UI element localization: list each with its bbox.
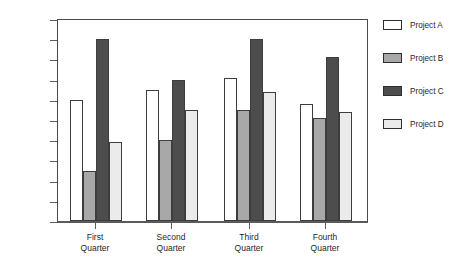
bar <box>300 104 313 221</box>
y-axis-tick-mark <box>50 60 57 61</box>
y-axis-tick-mark <box>50 202 57 203</box>
x-axis-tick-mark <box>325 223 326 229</box>
plot-area <box>57 19 368 223</box>
y-axis-tick-mark <box>50 141 57 142</box>
bar <box>263 92 276 221</box>
y-axis-tick-mark <box>50 182 57 183</box>
x-axis-tick-label: FourthQuarter <box>280 232 370 254</box>
legend-label: Project C <box>410 87 444 96</box>
y-axis-tick-mark <box>50 81 57 82</box>
bar <box>146 90 159 221</box>
bar-group <box>300 20 352 221</box>
x-axis-tick-label-line: Fourth <box>280 232 370 243</box>
legend-swatch <box>383 20 402 30</box>
bar <box>313 118 326 221</box>
legend-swatch <box>383 86 402 96</box>
bar-group <box>70 20 122 221</box>
y-axis-tick-mark <box>50 161 57 162</box>
bar-chart: 050100150200250300350400450500 FirstQuar… <box>0 0 460 266</box>
bar <box>109 142 122 221</box>
legend-swatch <box>383 53 402 63</box>
x-axis-tick-mark <box>95 223 96 229</box>
bar <box>70 100 83 221</box>
bar-group <box>146 20 198 221</box>
legend-label: Project B <box>410 54 443 63</box>
bars-layer <box>58 20 367 221</box>
bar <box>339 112 352 221</box>
bar <box>326 57 339 221</box>
y-axis-tick-mark <box>50 101 57 102</box>
bar <box>250 39 263 221</box>
legend-item[interactable]: Project C <box>383 85 444 97</box>
legend-label: Project D <box>410 120 444 129</box>
legend-label: Project A <box>410 21 443 30</box>
bar <box>96 39 109 221</box>
y-axis-tick-mark <box>50 40 57 41</box>
y-axis: 050100150200250300350400450500 <box>0 0 57 266</box>
legend-item[interactable]: Project A <box>383 19 443 31</box>
y-axis-tick-mark <box>50 222 57 223</box>
bar <box>159 140 172 221</box>
y-axis-tick-mark <box>50 20 57 21</box>
y-axis-tick-mark <box>50 121 57 122</box>
legend-item[interactable]: Project D <box>383 118 444 130</box>
legend-item[interactable]: Project B <box>383 52 443 64</box>
bar-group <box>224 20 276 221</box>
x-axis-tick-mark <box>171 223 172 229</box>
bar <box>172 80 185 221</box>
bar <box>237 110 250 221</box>
bar <box>83 171 96 222</box>
x-axis-tick-label-line: Second <box>126 232 216 243</box>
x-axis-tick-label-line: Quarter <box>126 243 216 254</box>
bar <box>224 78 237 221</box>
x-axis-tick-mark <box>249 223 250 229</box>
x-axis-tick-label: SecondQuarter <box>126 232 216 254</box>
legend-swatch <box>383 119 402 129</box>
x-axis-tick-label-line: Quarter <box>280 243 370 254</box>
bar <box>185 110 198 221</box>
